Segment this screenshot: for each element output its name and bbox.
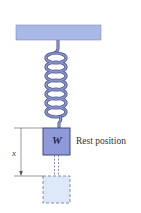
weight-label: W — [50, 134, 64, 146]
displacement-dimension — [14, 128, 43, 176]
spring-mass-diagram — [0, 0, 141, 213]
spring-coils — [46, 53, 66, 117]
dashed-spring-extension — [55, 155, 59, 176]
rest-position-label: Rest position — [76, 136, 126, 146]
arrowhead-icon — [19, 171, 23, 176]
ceiling-support — [16, 25, 101, 40]
displaced-block-outline — [43, 176, 70, 203]
displacement-label: x — [12, 148, 16, 158]
